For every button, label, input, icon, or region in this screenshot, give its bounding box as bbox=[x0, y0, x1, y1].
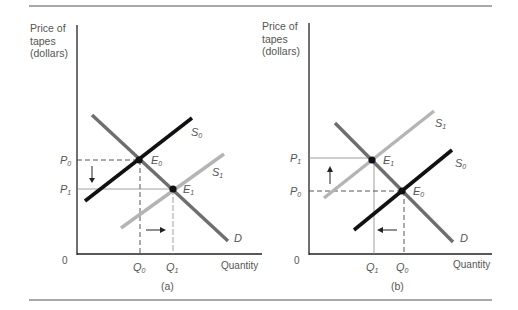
origin-label-a: 0 bbox=[62, 255, 68, 266]
d-label-a: D bbox=[234, 232, 242, 244]
y-axis-label-a-line3: (dollars) bbox=[30, 47, 68, 59]
p1-label-a: P1 bbox=[60, 183, 71, 196]
y-axis-label-b-line2: tapes bbox=[262, 33, 288, 45]
e1-label-a: E1 bbox=[183, 183, 194, 196]
x-axis-label-a: Quantity bbox=[221, 260, 258, 271]
y-axis-label-a-line1: Price of bbox=[30, 22, 66, 34]
equilibrium-e0-a bbox=[135, 156, 142, 163]
p1-label-b: P1 bbox=[290, 152, 301, 165]
y-axis-label-a-line2: tapes bbox=[30, 35, 56, 47]
e0-label-b: E0 bbox=[413, 185, 424, 198]
quantity-right-arrow-a bbox=[146, 227, 166, 233]
d-label-b: D bbox=[460, 232, 468, 244]
quantity-left-arrow-b bbox=[377, 227, 397, 233]
price-down-arrow-a bbox=[89, 166, 95, 183]
s1-label-a: S1 bbox=[212, 166, 223, 179]
p0-label-b: P0 bbox=[290, 185, 301, 198]
e0-label-a: E0 bbox=[151, 154, 162, 167]
equilibrium-e1-b bbox=[368, 156, 375, 163]
s0-label-a: S0 bbox=[191, 126, 202, 139]
s1-label-b: S1 bbox=[435, 117, 446, 130]
panel-b: Price of tapes (dollars) 0 Quantity P1 bbox=[262, 20, 492, 292]
y-axis-label-b-line3: (dollars) bbox=[262, 45, 300, 57]
equilibrium-e0-b bbox=[398, 187, 405, 194]
equilibrium-e1-a bbox=[169, 185, 176, 192]
x-axis-label-b: Quantity bbox=[453, 259, 490, 270]
supply-demand-figure: Price of tapes (dollars) 0 Quantity bbox=[0, 0, 518, 310]
q1-label-b: Q1 bbox=[366, 261, 379, 274]
q1-label-a: Q1 bbox=[166, 261, 179, 274]
caption-b: (b) bbox=[391, 280, 404, 292]
origin-label-b: 0 bbox=[294, 255, 300, 266]
price-up-arrow-b bbox=[327, 166, 333, 184]
y-axis-label-b-line1: Price of bbox=[262, 20, 298, 32]
q0-label-b: Q0 bbox=[396, 261, 409, 274]
panel-a: Price of tapes (dollars) 0 Quantity bbox=[30, 22, 262, 292]
caption-a: (a) bbox=[161, 280, 174, 292]
s0-label-b: S0 bbox=[455, 157, 466, 170]
e1-label-b: E1 bbox=[383, 154, 394, 167]
q0-label-a: Q0 bbox=[133, 261, 146, 274]
p0-label-a: P0 bbox=[60, 154, 71, 167]
